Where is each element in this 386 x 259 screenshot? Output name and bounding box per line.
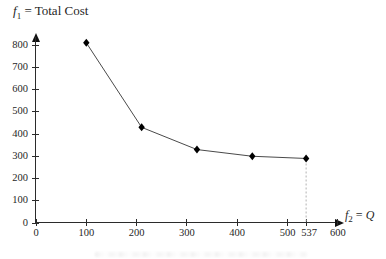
total-cost-chart: f1 = Total Cost f2 = Q 01002003004005006… [0, 0, 386, 259]
data-point-diamond-marker [303, 154, 309, 162]
total-cost-line [86, 43, 306, 159]
cropped-caption-remnant [95, 252, 307, 257]
data-point-diamond-marker [194, 146, 200, 154]
data-series-plot [0, 0, 386, 259]
data-point-diamond-marker [249, 152, 255, 160]
